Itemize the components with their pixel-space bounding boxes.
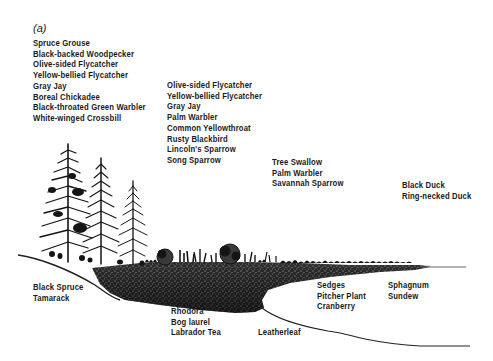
bird-species-label: Black Duck: [402, 180, 471, 191]
panel-label: (a): [33, 22, 46, 34]
plant-list-edge: Sphagnum Sundew: [388, 280, 429, 301]
bird-species-label: Tree Swallow: [272, 157, 344, 168]
bird-species-label: Black-backed Woodpecker: [33, 49, 146, 60]
bird-species-label: Boreal Chickadee: [33, 92, 146, 103]
bird-list-sedge-mat: Tree Swallow Palm Warbler Savannah Sparr…: [272, 157, 344, 189]
bird-species-label: Ring-necked Duck: [402, 191, 471, 202]
plant-species-label: Sphagnum: [388, 280, 429, 291]
plant-species-label: Labrador Tea: [171, 327, 221, 338]
bird-species-label: Common Yellowthroat: [167, 123, 262, 134]
plant-species-label: Tamarack: [33, 293, 83, 304]
plant-species-label: Rhodora: [171, 306, 221, 317]
plant-species-label: Black Spruce: [33, 282, 83, 293]
bird-list-shrub-zone: Olive-sided Flycatcher Yellow-bellied Fl…: [167, 80, 262, 166]
bird-species-label: Olive-sided Flycatcher: [167, 80, 262, 91]
bird-species-label: Olive-sided Flycatcher: [33, 59, 146, 70]
plant-species-label: Leatherleaf: [258, 327, 301, 338]
bird-species-label: Spruce Grouse: [33, 38, 146, 49]
plant-species-label: Pitcher Plant: [317, 291, 366, 302]
bird-species-label: Gray Jay: [33, 81, 146, 92]
plant-list-forest: Black Spruce Tamarack: [33, 282, 83, 303]
bird-species-label: Palm Warbler: [272, 168, 344, 179]
plant-species-label: Bog laurel: [171, 317, 221, 328]
plant-list-shrub: Rhodora Bog laurel Labrador Tea: [171, 306, 221, 338]
plant-list-leatherleaf: Leatherleaf: [258, 327, 301, 338]
shrub-vegetation: [145, 244, 412, 265]
bird-list-spruce-forest: Spruce Grouse Black-backed Woodpecker Ol…: [33, 38, 146, 124]
bird-species-label: Yellow-bellied Flycatcher: [33, 70, 146, 81]
bird-species-label: Palm Warbler: [167, 112, 262, 123]
bird-list-open-water: Black Duck Ring-necked Duck: [402, 180, 471, 201]
plant-species-label: Sedges: [317, 280, 366, 291]
bird-species-label: White-winged Crossbill: [33, 113, 146, 124]
bird-species-label: Black-throated Green Warbler: [33, 102, 146, 113]
bird-species-label: Song Sparrow: [167, 155, 262, 166]
black-spruce-trees: [40, 144, 147, 266]
plant-species-label: Cranberry: [317, 301, 366, 312]
bird-species-label: Lincoln's Sparrow: [167, 144, 262, 155]
vegetation-mat: [92, 262, 430, 313]
bird-species-label: Rusty Blackbird: [167, 134, 262, 145]
bird-species-label: Yellow-bellied Flycatcher: [167, 91, 262, 102]
bird-species-label: Savannah Sparrow: [272, 178, 344, 189]
bird-species-label: Gray Jay: [167, 101, 262, 112]
plant-species-label: Sundew: [388, 291, 429, 302]
plant-list-mat: Sedges Pitcher Plant Cranberry: [317, 280, 366, 312]
